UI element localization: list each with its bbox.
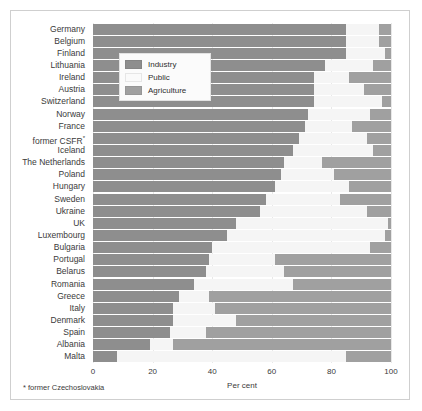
- bar-segment-agriculture: [385, 48, 391, 59]
- bar-segment-public: [308, 109, 371, 120]
- bar-row: [93, 315, 391, 326]
- bar-segment-agriculture: [379, 24, 391, 35]
- bar-segment-public: [150, 339, 174, 350]
- chart-legend: Industry Public Agriculture: [119, 53, 211, 101]
- y-axis-label: The Netherlands: [22, 157, 85, 168]
- bar-row: [93, 230, 391, 241]
- bar-segment-industry: [93, 109, 308, 120]
- bar-row: [93, 218, 391, 229]
- y-axis-category-labels: GermanyBelgiumFinlandLithuaniaIrelandAus…: [11, 23, 89, 363]
- bar-row: [93, 157, 391, 168]
- y-axis-label: Romania: [51, 279, 85, 290]
- bar-row: [93, 169, 391, 180]
- bar-row: [93, 242, 391, 253]
- y-axis-label: Spain: [63, 327, 85, 338]
- bar-segment-industry: [93, 279, 194, 290]
- y-axis-label: Ireland: [59, 72, 85, 83]
- y-axis-label: Germany: [50, 24, 85, 35]
- legend-swatch-industry-icon: [125, 60, 142, 69]
- bar-row: [93, 206, 391, 217]
- y-axis-label: Austria: [59, 84, 85, 95]
- bar-segment-agriculture: [346, 351, 391, 362]
- bar-segment-public: [266, 194, 341, 205]
- bar-segment-agriculture: [382, 96, 391, 107]
- bar-segment-agriculture: [284, 266, 391, 277]
- bar-row: [93, 36, 391, 47]
- bar-segment-industry: [93, 242, 212, 253]
- bar-segment-agriculture: [322, 157, 391, 168]
- y-axis-label: UK: [73, 218, 85, 229]
- bar-segment-agriculture: [334, 169, 391, 180]
- bar-row: [93, 121, 391, 132]
- bar-segment-public: [284, 157, 323, 168]
- bar-segment-public: [236, 218, 388, 229]
- y-axis-label: Norway: [56, 109, 85, 120]
- y-axis-label: France: [59, 121, 85, 132]
- y-axis-label: Luxembourg: [38, 230, 85, 241]
- bar-row: [93, 181, 391, 192]
- legend-item-public: Public: [125, 71, 205, 84]
- bar-segment-agriculture: [173, 339, 391, 350]
- bar-segment-public: [117, 351, 346, 362]
- bar-segment-public: [173, 303, 215, 314]
- bar-row: [93, 327, 391, 338]
- bar-row: [93, 133, 391, 144]
- bar-segment-industry: [93, 133, 299, 144]
- y-axis-label: Belgium: [54, 36, 85, 47]
- bar-segment-industry: [93, 230, 227, 241]
- y-axis-label: former CSFR*: [33, 133, 85, 144]
- bar-segment-public: [194, 279, 292, 290]
- bar-segment-agriculture: [340, 194, 391, 205]
- bar-segment-public: [173, 315, 236, 326]
- bar-row: [93, 339, 391, 350]
- bar-segment-agriculture: [370, 242, 391, 253]
- bar-segment-public: [346, 24, 379, 35]
- bar-segment-industry: [93, 24, 346, 35]
- bar-segment-industry: [93, 145, 293, 156]
- bar-row: [93, 194, 391, 205]
- bar-segment-agriculture: [209, 291, 391, 302]
- bar-segment-industry: [93, 351, 117, 362]
- legend-label-public: Public: [148, 73, 170, 82]
- bar-segment-public: [293, 145, 373, 156]
- bar-segment-industry: [93, 121, 305, 132]
- bar-segment-agriculture: [293, 279, 391, 290]
- x-tick-label: 0: [91, 367, 95, 376]
- bar-segment-public: [325, 60, 373, 71]
- bar-segment-public: [281, 169, 335, 180]
- x-tick-label: 100: [384, 367, 397, 376]
- bar-segment-agriculture: [388, 218, 391, 229]
- y-axis-label: Iceland: [58, 145, 85, 156]
- bar-segment-industry: [93, 181, 275, 192]
- y-axis-label: Bulgaria: [54, 242, 85, 253]
- bar-segment-agriculture: [373, 145, 391, 156]
- y-axis-label: Lithuania: [50, 60, 85, 71]
- bar-row: [93, 24, 391, 35]
- bar-row: [93, 109, 391, 120]
- bar-row: [93, 291, 391, 302]
- bar-row: [93, 279, 391, 290]
- bar-segment-agriculture: [367, 206, 391, 217]
- bar-segment-agriculture: [385, 230, 391, 241]
- bar-segment-public: [260, 206, 367, 217]
- bar-segment-industry: [93, 291, 179, 302]
- bar-segment-agriculture: [275, 254, 391, 265]
- bar-segment-public: [299, 133, 368, 144]
- bar-segment-industry: [93, 339, 150, 350]
- legend-label-industry: Industry: [148, 60, 176, 69]
- bar-row: [93, 351, 391, 362]
- bar-segment-public: [314, 72, 350, 83]
- legend-swatch-agriculture-icon: [125, 86, 142, 95]
- bar-segment-public: [227, 230, 385, 241]
- bar-segment-agriculture: [352, 121, 391, 132]
- y-axis-label: Greece: [57, 291, 85, 302]
- bar-segment-industry: [93, 254, 209, 265]
- bar-segment-industry: [93, 303, 173, 314]
- bar-segment-public: [209, 254, 275, 265]
- bar-segment-public: [212, 242, 370, 253]
- chart-footnote: * former Czechoslovakia: [23, 383, 104, 392]
- legend-swatch-public-icon: [125, 73, 142, 82]
- y-axis-label: Switzerland: [41, 96, 85, 107]
- bar-segment-agriculture: [379, 36, 391, 47]
- y-axis-label: Albania: [57, 339, 85, 350]
